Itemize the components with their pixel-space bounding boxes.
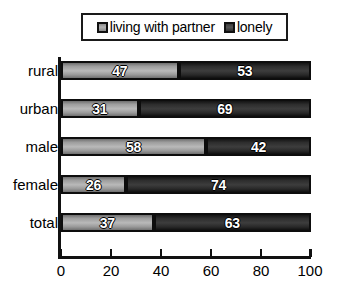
table-row: rural 47 53 xyxy=(61,61,311,80)
bar-segment-partner-total: 37 xyxy=(61,213,154,232)
x-tick-60 xyxy=(210,249,212,257)
bar-segment-partner-rural: 47 xyxy=(61,61,179,80)
table-row: total 37 63 xyxy=(61,213,311,232)
bar-value-lonely-male: 42 xyxy=(251,140,266,154)
x-tick-0 xyxy=(60,249,62,257)
bar-segment-partner-male: 58 xyxy=(61,137,206,156)
bar-segment-lonely-urban: 69 xyxy=(139,99,312,118)
bar-value-lonely-rural: 53 xyxy=(237,64,252,78)
table-row: male 58 42 xyxy=(61,137,311,156)
legend-label-living-with-partner: living with partner xyxy=(110,20,215,34)
bar-segment-lonely-male: 42 xyxy=(206,137,311,156)
x-tick-20 xyxy=(110,249,112,257)
bar-value-lonely-urban: 69 xyxy=(217,102,232,116)
x-tick-100 xyxy=(309,249,311,257)
table-row: urban 31 69 xyxy=(61,99,311,118)
x-axis-line xyxy=(58,256,311,259)
x-tick-label-60: 60 xyxy=(203,263,220,278)
stacked-bar-chart: living with partner lonely rural 47 53 u… xyxy=(0,0,340,294)
category-label-urban: urban xyxy=(20,100,58,117)
bar-segment-partner-urban: 31 xyxy=(61,99,139,118)
x-tick-40 xyxy=(160,249,162,257)
x-tick-label-20: 20 xyxy=(103,263,120,278)
bar-value-partner-urban: 31 xyxy=(92,102,107,116)
lonely-swatch-icon xyxy=(224,22,235,33)
category-label-rural: rural xyxy=(28,62,58,79)
category-label-male: male xyxy=(25,138,58,155)
partner-swatch-icon xyxy=(97,22,108,33)
x-tick-label-80: 80 xyxy=(253,263,270,278)
legend-label-lonely: lonely xyxy=(237,20,272,34)
bar-segment-lonely-female: 74 xyxy=(126,175,311,194)
category-label-total: total xyxy=(30,214,58,231)
bar-value-partner-male: 58 xyxy=(126,140,141,154)
bar-value-partner-female: 26 xyxy=(86,178,101,192)
bar-value-lonely-total: 63 xyxy=(225,216,240,230)
chart-legend: living with partner lonely xyxy=(81,13,288,41)
plot-area: rural 47 53 urban 31 69 male 58 xyxy=(61,57,311,256)
x-tick-label-0: 0 xyxy=(57,263,65,278)
bar-value-partner-rural: 47 xyxy=(112,64,127,78)
category-label-female: female xyxy=(13,176,58,193)
bar-value-lonely-female: 74 xyxy=(211,178,226,192)
x-tick-label-100: 100 xyxy=(297,263,322,278)
legend-entry-living-with-partner: living with partner xyxy=(97,20,215,34)
legend-entry-lonely: lonely xyxy=(224,20,272,34)
x-tick-label-40: 40 xyxy=(153,263,170,278)
bar-value-partner-total: 37 xyxy=(100,216,115,230)
x-tick-80 xyxy=(260,249,262,257)
bar-segment-lonely-rural: 53 xyxy=(179,61,312,80)
bar-segment-partner-female: 26 xyxy=(61,175,126,194)
bar-segment-lonely-total: 63 xyxy=(154,213,312,232)
table-row: female 26 74 xyxy=(61,175,311,194)
